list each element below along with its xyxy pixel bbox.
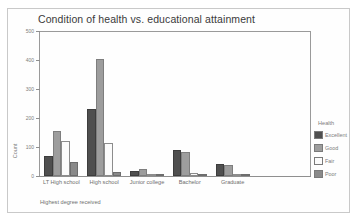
y-axis-tick-label: 300 (12, 87, 34, 92)
legend-swatch (314, 170, 323, 178)
bar-group (87, 31, 121, 176)
y-axis-tick-label: 400 (12, 58, 34, 63)
bar (87, 109, 96, 176)
bar-group (216, 31, 250, 176)
legend-label: Good (325, 145, 338, 151)
bar (113, 172, 122, 176)
bar (173, 150, 182, 176)
legend-swatch (314, 131, 323, 139)
y-axis-tick (36, 31, 40, 32)
chart-screenshot: Condition of health vs. educational atta… (0, 0, 358, 223)
bar-groups (40, 31, 254, 176)
legend-swatch (314, 157, 323, 165)
bar (53, 131, 62, 176)
legend-label: Poor (325, 171, 336, 177)
bar (139, 169, 148, 176)
bar-group (44, 31, 78, 176)
y-axis-tick-label: 500 (12, 29, 34, 34)
y-axis-tick-label: 0 (12, 174, 34, 179)
y-axis-title: Count (12, 130, 18, 172)
bar (96, 59, 105, 176)
y-axis-tick-label: 200 (12, 116, 34, 121)
legend-title: Health (318, 120, 334, 126)
y-axis-tick-label: 100 (12, 145, 34, 150)
bar (233, 174, 242, 176)
x-axis-title: Highest degree received (40, 199, 101, 205)
y-axis-tick (36, 118, 40, 119)
bar (61, 141, 70, 176)
plot-baseline (39, 176, 311, 177)
bar (70, 162, 79, 176)
bar (130, 171, 139, 177)
y-axis-tick (36, 89, 40, 90)
legend-label: Fair (325, 158, 334, 164)
legend-swatch (314, 144, 323, 152)
bar (198, 174, 207, 176)
bar-group (173, 31, 207, 176)
legend-label: Excellent (325, 132, 347, 138)
y-axis-tick (36, 60, 40, 61)
bar (216, 164, 225, 176)
bar (190, 173, 199, 176)
y-axis-tick (36, 147, 40, 148)
y-axis-tick (36, 176, 40, 177)
plot-right-rule (310, 31, 311, 177)
bar (241, 174, 250, 176)
bar (181, 152, 190, 176)
x-axis-category-label: Graduate (203, 179, 263, 185)
bar (104, 143, 113, 176)
chart-title: Condition of health vs. educational atta… (38, 13, 255, 25)
bar-group (130, 31, 164, 176)
bar (224, 165, 233, 176)
bar (147, 174, 156, 176)
bar (44, 156, 53, 176)
bar (156, 174, 165, 176)
